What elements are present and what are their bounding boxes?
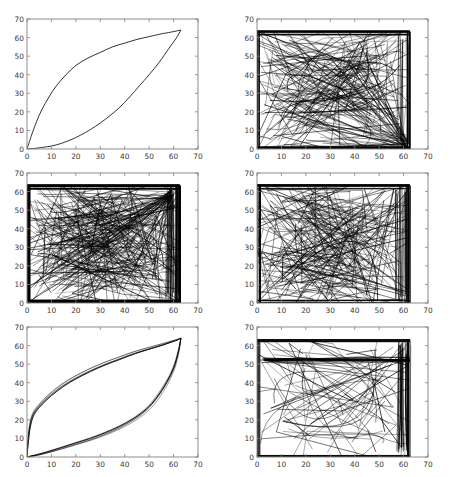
- ytick-label: 0: [249, 299, 254, 308]
- ytick-label: 60: [15, 187, 24, 196]
- xtick-label: 10: [277, 152, 286, 161]
- xtick-label: 60: [169, 152, 178, 161]
- path-line: [258, 389, 276, 392]
- ytick-label: 40: [15, 224, 24, 233]
- ytick-label: 40: [245, 224, 254, 233]
- path-curve: [27, 30, 181, 149]
- xtick-label: 10: [47, 306, 56, 315]
- xtick-label: 0: [255, 152, 260, 161]
- ytick-label: 70: [245, 15, 254, 24]
- ytick-label: 50: [245, 52, 254, 61]
- path-curve: [27, 338, 181, 457]
- subplot-4: 010203040506070010203040506070: [257, 173, 428, 303]
- xtick-label: 10: [277, 306, 286, 315]
- ytick-label: 0: [19, 145, 24, 154]
- plot-area: [27, 327, 198, 457]
- ytick-label: 60: [15, 341, 24, 350]
- path-curve: [27, 338, 181, 457]
- ytick-label: 30: [15, 397, 24, 406]
- xtick-label: 40: [350, 306, 359, 315]
- xtick-label: 70: [423, 460, 432, 469]
- figure-canvas: 0102030405060700102030405060700102030405…: [0, 0, 459, 477]
- path-curve: [27, 338, 181, 457]
- ytick-label: 40: [245, 378, 254, 387]
- xtick-label: 30: [96, 152, 105, 161]
- ytick-label: 10: [15, 280, 24, 289]
- xtick-label: 20: [301, 306, 310, 315]
- path-line: [54, 273, 79, 302]
- ytick-label: 10: [245, 434, 254, 443]
- xtick-label: 40: [350, 152, 359, 161]
- ytick-label: 20: [15, 261, 24, 270]
- xtick-label: 30: [96, 306, 105, 315]
- ytick-label: 0: [19, 299, 24, 308]
- path-curve: [27, 30, 181, 149]
- xtick-label: 0: [25, 306, 30, 315]
- xtick-label: 70: [423, 306, 432, 315]
- ytick-label: 30: [15, 89, 24, 98]
- xtick-label: 70: [193, 460, 202, 469]
- ytick-label: 30: [245, 89, 254, 98]
- path-curve: [27, 338, 181, 457]
- xtick-label: 20: [301, 460, 310, 469]
- ytick-label: 30: [245, 243, 254, 252]
- xtick-label: 30: [326, 152, 335, 161]
- path-collection: [27, 185, 180, 303]
- ytick-label: 60: [245, 341, 254, 350]
- xtick-label: 50: [144, 306, 153, 315]
- ytick-label: 60: [245, 33, 254, 42]
- path-curve: [27, 338, 181, 457]
- xtick-label: 0: [25, 460, 30, 469]
- ytick-label: 70: [245, 323, 254, 332]
- ytick-label: 30: [15, 243, 24, 252]
- plot-area: [257, 327, 428, 457]
- xtick-label: 40: [120, 152, 129, 161]
- path-line: [173, 192, 174, 293]
- xtick-label: 50: [374, 152, 383, 161]
- xtick-label: 20: [71, 152, 80, 161]
- subplot-3: 010203040506070010203040506070: [27, 173, 198, 303]
- path-collection: [27, 338, 181, 457]
- xtick-label: 50: [144, 152, 153, 161]
- path-curve: [27, 338, 181, 457]
- ytick-label: 10: [245, 280, 254, 289]
- xtick-label: 20: [71, 306, 80, 315]
- path-line: [311, 341, 396, 392]
- ytick-label: 40: [15, 70, 24, 79]
- ytick-label: 20: [15, 415, 24, 424]
- ytick-label: 20: [245, 261, 254, 270]
- ytick-label: 0: [249, 145, 254, 154]
- xtick-label: 70: [193, 152, 202, 161]
- xtick-label: 30: [326, 460, 335, 469]
- path-line: [265, 362, 303, 396]
- ytick-label: 20: [15, 107, 24, 116]
- ytick-label: 10: [15, 434, 24, 443]
- ytick-label: 10: [245, 126, 254, 135]
- xtick-label: 60: [399, 306, 408, 315]
- ytick-label: 50: [15, 360, 24, 369]
- path-line: [38, 189, 86, 192]
- xtick-label: 30: [96, 460, 105, 469]
- ytick-label: 30: [245, 397, 254, 406]
- ytick-label: 50: [245, 206, 254, 215]
- ytick-label: 20: [245, 107, 254, 116]
- path-collection: [257, 185, 410, 303]
- plot-area: [257, 19, 428, 149]
- path-curve: [27, 338, 181, 457]
- path-curve: [27, 338, 181, 457]
- ytick-label: 50: [15, 52, 24, 61]
- ytick-label: 20: [245, 415, 254, 424]
- xtick-label: 60: [169, 306, 178, 315]
- ytick-label: 10: [15, 126, 24, 135]
- xtick-label: 0: [25, 152, 30, 161]
- path-curve: [27, 338, 181, 457]
- ytick-label: 0: [249, 453, 254, 462]
- ytick-label: 70: [245, 169, 254, 178]
- ytick-label: 60: [15, 33, 24, 42]
- xtick-label: 30: [326, 306, 335, 315]
- xtick-label: 70: [423, 152, 432, 161]
- ytick-label: 70: [15, 323, 24, 332]
- ytick-label: 50: [245, 360, 254, 369]
- path-line: [272, 350, 342, 357]
- ytick-label: 40: [15, 378, 24, 387]
